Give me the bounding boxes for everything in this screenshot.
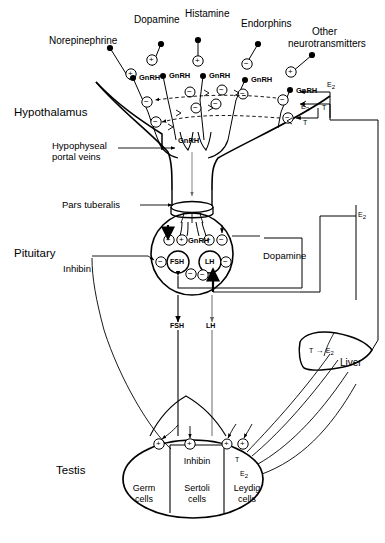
gnrh-soma-3 [200, 73, 206, 79]
sign-minus-h6: − [153, 117, 158, 126]
sign-plus-sertoli: + [187, 439, 192, 448]
label-gnrh-trunk: GnRH [178, 136, 199, 145]
label-sertoli-cells-line2: cells [175, 494, 219, 505]
label-e2-mid-right: E2 [301, 103, 309, 112]
label-liver-conversion: T → E2 [309, 346, 334, 356]
bouton-endorphins [255, 41, 261, 47]
label-inhibin-testis: Inhibin [176, 456, 218, 467]
sign-minus-h4: − [240, 89, 245, 98]
gnrh-soma-4 [242, 77, 248, 83]
label-e2-upper-right: E2 [327, 81, 335, 90]
label-inhibin-input: Inhibin [63, 263, 91, 274]
label-germ-cells-line1: Germ [122, 483, 166, 494]
sign-minus-fsh-left: − [158, 257, 163, 266]
bouton-histamine [195, 37, 201, 43]
sign-minus-h3: − [219, 85, 224, 94]
label-gnrh-2: GnRH [169, 71, 190, 80]
sign-minus-pit-2: − [219, 235, 224, 244]
sign-plus-other: + [288, 67, 293, 76]
bouton-other [309, 52, 315, 58]
sign-minus-h1: − [144, 97, 149, 106]
label-e2-right-column: E2 [358, 211, 366, 220]
label-norepinephrine: Norepinephrine [49, 35, 117, 46]
label-liver: Liver [340, 357, 362, 368]
sign-minus-end: − [244, 59, 249, 68]
label-lh-tract: LH [206, 322, 215, 329]
sign-plus-germ: + [156, 439, 161, 448]
sign-plus-leydig-2: + [240, 439, 245, 448]
sign-plus-dop: + [149, 55, 154, 64]
pars-tuberalis-band [171, 202, 213, 213]
sign-minus-h2: − [187, 87, 192, 96]
label-gnrh-4: GnRH [251, 75, 272, 84]
sign-plus-pit-2: + [206, 235, 211, 244]
gnrh-soma-5 [287, 87, 293, 93]
label-testis: Testis [56, 464, 85, 476]
sign-minus-fsh-lower: − [188, 269, 193, 278]
gnrh-soma-2 [160, 73, 166, 79]
label-hypothalamus: Hypothalamus [14, 106, 88, 118]
label-germ-cells-line2: cells [122, 494, 166, 505]
label-dopamine: Dopamine [134, 14, 180, 25]
sign-plus-ne: + [128, 69, 133, 78]
sign-minus-h5: − [280, 95, 285, 104]
label-pituitary: Pituitary [14, 247, 56, 259]
sign-plus-leydig-1: + [224, 439, 229, 448]
label-t-mid-right: T [322, 104, 326, 111]
sign-minus-pit-1: − [166, 235, 171, 244]
label-leydig-cells-line1: Leydig [226, 483, 268, 494]
label-other-nt-line1: Other [312, 26, 337, 37]
label-gnrh-5: GnRH [296, 86, 317, 95]
label-endorphins: Endorphins [241, 18, 292, 29]
label-portal-veins-line1: Hypophyseal [52, 140, 107, 151]
label-leydig-cells-line2: cells [226, 494, 268, 505]
label-estradiol-testis: E2 [240, 470, 248, 479]
label-portal-veins-line2: portal veins [52, 151, 101, 162]
label-t-lower: T [303, 119, 307, 126]
label-gnrh-3: GnRH [209, 71, 230, 80]
label-testosterone-testis: T [235, 456, 239, 463]
sign-minus-lh-lower: − [200, 270, 205, 279]
sign-minus-lh-right: − [223, 257, 228, 266]
label-fsh-cell: FSH [170, 258, 184, 265]
label-dopamine-pituitary: Dopamine [263, 250, 306, 261]
label-other-nt-line2: neurotransmitters [288, 38, 366, 49]
sign-minus-h7: − [193, 103, 198, 112]
label-lh-cell: LH [205, 258, 214, 265]
sign-minus-h9: − [285, 113, 290, 122]
label-gnrh-1: GnRH [139, 73, 160, 82]
label-fsh-tract: FSH [170, 322, 184, 329]
bouton-dopamine [158, 41, 164, 47]
label-sertoli-cells-line1: Sertoli [175, 483, 219, 494]
label-pars-tuberalis: Pars tuberalis [62, 199, 120, 210]
sign-plus-his: + [195, 56, 200, 65]
sign-plus-pit-1: + [179, 235, 184, 244]
label-histamine: Histamine [185, 8, 229, 19]
pituitary-outline [151, 213, 233, 295]
diagram-canvas: Norepinephrine Dopamine Histamine Endorp… [0, 0, 385, 543]
sign-minus-h8: − [213, 99, 218, 108]
